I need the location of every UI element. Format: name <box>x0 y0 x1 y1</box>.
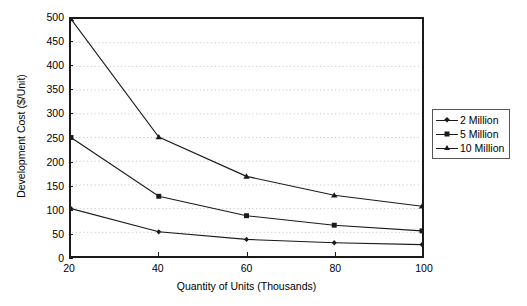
legend-marker-triangle-icon <box>436 142 458 154</box>
y-axis-tick-mark <box>69 210 73 211</box>
data-point <box>332 223 337 228</box>
y-axis-tick-mark <box>69 138 73 139</box>
y-axis-tick-label: 50 <box>52 228 64 240</box>
y-axis-tick-mark <box>69 65 73 66</box>
legend: 2 Million5 Million10 Million <box>432 109 510 159</box>
x-axis-tick-label: 100 <box>415 262 433 274</box>
data-point <box>243 173 249 178</box>
plot-area <box>69 17 424 258</box>
y-axis-tick-label: 150 <box>46 180 64 192</box>
legend-item: 10 Million <box>436 141 504 155</box>
y-axis-tick-label: 400 <box>46 59 64 71</box>
data-point <box>420 228 422 233</box>
x-axis-tick-label: 80 <box>329 262 341 274</box>
legend-item-label: 5 Million <box>458 128 499 140</box>
x-axis-tick-mark <box>247 252 248 258</box>
y-axis-tick-label: 350 <box>46 83 64 95</box>
y-axis-tick-label: 200 <box>46 156 64 168</box>
legend-item: 2 Million <box>436 113 504 127</box>
x-axis-title: Quantity of Units (Thousands) <box>69 280 424 292</box>
y-axis-tick-label: 450 <box>46 35 64 47</box>
y-axis-tick-mark <box>69 186 73 187</box>
data-point <box>332 240 337 245</box>
series-5-million <box>71 135 422 233</box>
legend-marker-diamond-icon <box>436 114 458 126</box>
data-point <box>156 194 161 199</box>
y-axis-tick-mark <box>69 41 73 42</box>
y-axis-tick-mark <box>69 17 73 18</box>
y-axis-tick-mark <box>69 113 73 114</box>
chart-figure: 050100150200250300350400450500 Developme… <box>0 0 527 306</box>
y-axis-tick-label: 500 <box>46 11 64 23</box>
legend-item-label: 10 Million <box>458 142 504 154</box>
data-point <box>156 229 161 234</box>
data-point <box>420 242 422 247</box>
y-axis-tick-label: 250 <box>46 132 64 144</box>
data-point <box>71 19 74 21</box>
x-axis-tick-label: 20 <box>63 262 75 274</box>
y-axis-tick-mark <box>69 162 73 163</box>
y-axis-tick-mark <box>69 234 73 235</box>
x-axis-tick-mark <box>158 252 159 258</box>
y-axis-tick-label: 100 <box>46 204 64 216</box>
y-axis-title: Development Cost ($/Unit) <box>15 11 27 261</box>
x-axis-tick-label: 40 <box>152 262 164 274</box>
series-2-million <box>71 206 422 247</box>
y-axis-tick-mark <box>69 258 73 259</box>
data-series-layer <box>71 19 422 256</box>
data-point <box>244 237 249 242</box>
y-axis-tick-mark <box>69 89 73 90</box>
legend-marker-square-icon <box>436 128 458 140</box>
x-axis-tick-labels: 20406080100 <box>0 262 527 276</box>
legend-item: 5 Million <box>436 127 504 141</box>
series-10-million <box>71 19 422 208</box>
x-axis-tick-label: 60 <box>241 262 253 274</box>
x-axis-tick-mark <box>335 252 336 258</box>
legend-item-label: 2 Million <box>458 114 499 126</box>
data-point <box>244 213 249 218</box>
y-axis-tick-label: 300 <box>46 107 64 119</box>
